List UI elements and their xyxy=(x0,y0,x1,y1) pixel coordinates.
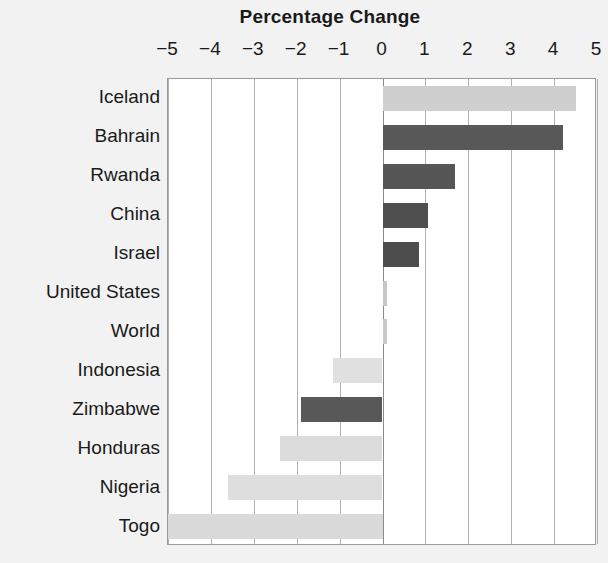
y-tick-label: United States xyxy=(46,281,160,303)
bar xyxy=(383,281,387,306)
y-tick-label: Nigeria xyxy=(100,476,160,498)
chart-figure: Percentage Change −5−4−3−2−1012345 Icela… xyxy=(0,0,608,563)
x-tick-label: 4 xyxy=(548,38,559,60)
y-tick-label: Bahrain xyxy=(95,125,161,147)
bar xyxy=(383,242,419,267)
y-tick-label: Iceland xyxy=(99,86,160,108)
y-tick-label: Indonesia xyxy=(78,359,160,381)
x-tick-label: −2 xyxy=(285,38,307,60)
x-tick-label: −4 xyxy=(199,38,221,60)
x-tick-label: 1 xyxy=(419,38,430,60)
y-tick-label: Honduras xyxy=(78,437,160,459)
x-tick-label: −1 xyxy=(328,38,350,60)
bar xyxy=(280,436,383,461)
y-tick-label: China xyxy=(110,203,160,225)
x-tick-label: 2 xyxy=(462,38,473,60)
x-tick-label: 5 xyxy=(591,38,602,60)
plot-area xyxy=(167,78,596,545)
x-tick-label: 3 xyxy=(505,38,516,60)
y-tick-label: Israel xyxy=(114,242,160,264)
bar xyxy=(383,125,563,150)
bar xyxy=(333,358,382,383)
bar xyxy=(168,514,383,539)
x-axis-tick-labels: −5−4−3−2−1012345 xyxy=(167,38,596,64)
y-tick-label: World xyxy=(111,320,160,342)
x-tick-label: −5 xyxy=(156,38,178,60)
bar xyxy=(228,475,382,500)
bar xyxy=(383,164,456,189)
y-tick-label: Rwanda xyxy=(90,164,160,186)
y-tick-label: Zimbabwe xyxy=(72,398,160,420)
bar xyxy=(383,319,387,344)
x-tick-label: −3 xyxy=(242,38,264,60)
bars-layer xyxy=(168,79,595,544)
gridline xyxy=(597,79,598,544)
bar xyxy=(383,86,576,111)
bar xyxy=(301,397,383,422)
y-tick-label: Togo xyxy=(119,515,160,537)
chart-title: Percentage Change xyxy=(0,6,608,28)
x-tick-label: 0 xyxy=(376,38,387,60)
bar xyxy=(383,203,428,228)
y-axis-category-labels: IcelandBahrainRwandaChinaIsraelUnited St… xyxy=(0,78,160,545)
